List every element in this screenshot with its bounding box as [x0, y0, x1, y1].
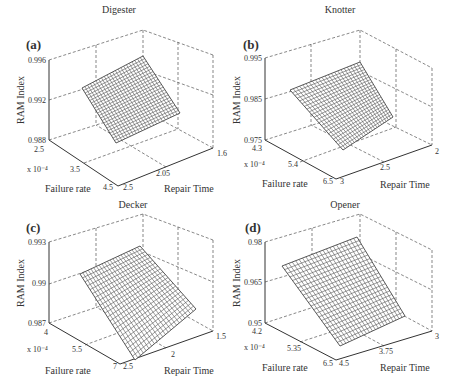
svg-text:0.988: 0.988: [28, 136, 46, 145]
svg-text:3.75: 3.75: [379, 347, 393, 356]
svg-text:0.995: 0.995: [244, 54, 262, 63]
svg-text:5.5: 5.5: [72, 345, 82, 354]
svg-text:7: 7: [113, 362, 117, 371]
svg-text:Knotter: Knotter: [325, 4, 356, 15]
svg-text:0.965: 0.965: [244, 278, 262, 287]
svg-text:0.99: 0.99: [32, 279, 46, 288]
svg-text:(c): (c): [26, 220, 40, 235]
svg-text:RAM Index: RAM Index: [231, 259, 242, 307]
panel-title: Digester: [102, 4, 137, 15]
svg-text:6.5: 6.5: [323, 359, 333, 368]
svg-text:x 10⁻⁴: x 10⁻⁴: [27, 345, 48, 354]
svg-text:RAM Index: RAM Index: [15, 259, 26, 307]
panel-label: (a): [26, 37, 41, 52]
svg-text:2.5: 2.5: [380, 163, 390, 172]
svg-text:2.5: 2.5: [123, 183, 133, 192]
svg-text:Failure rate: Failure rate: [262, 362, 308, 373]
svg-text:0.996: 0.996: [28, 56, 46, 65]
svg-text:Opener: Opener: [330, 199, 360, 210]
figure-canvas: Digester (a) 0.996 0.992 0.988 2.5 3.5 4…: [0, 0, 455, 392]
svg-text:0.985: 0.985: [244, 95, 262, 104]
svg-text:2.5: 2.5: [34, 145, 44, 154]
svg-text:2: 2: [435, 147, 439, 156]
svg-text:0.987: 0.987: [28, 319, 46, 328]
failure-rate-axis: [49, 140, 118, 186]
svg-text:Failure rate: Failure rate: [45, 365, 91, 376]
svg-text:4.5: 4.5: [103, 183, 113, 192]
svg-text:Repair Time: Repair Time: [380, 179, 430, 190]
svg-text:RAM Index: RAM Index: [231, 76, 242, 124]
svg-text:0.992: 0.992: [28, 96, 46, 105]
svg-text:6.5: 6.5: [323, 177, 333, 186]
svg-text:(b): (b): [243, 37, 259, 52]
svg-text:0.993: 0.993: [28, 238, 46, 247]
z-axis-label: RAM Index: [15, 76, 26, 124]
svg-text:4.5: 4.5: [339, 359, 349, 368]
panel-c: Decker (c) 0.993 0.99 0.987 4 5.5 7 2.5 …: [15, 199, 226, 376]
svg-text:Failure rate: Failure rate: [262, 178, 308, 189]
svg-text:x 10⁻⁴: x 10⁻⁴: [27, 165, 48, 174]
svg-text:4.2: 4.2: [252, 327, 262, 336]
svg-text:5.4: 5.4: [288, 160, 298, 169]
svg-text:3.5: 3.5: [70, 165, 80, 174]
svg-text:Decker: Decker: [119, 199, 149, 210]
svg-text:4.3: 4.3: [252, 144, 262, 153]
svg-text:3: 3: [435, 332, 439, 341]
panel-a: Digester (a) 0.996 0.992 0.988 2.5 3.5 4…: [15, 4, 227, 194]
svg-text:2.05: 2.05: [156, 169, 170, 178]
svg-text:2.5: 2.5: [123, 362, 133, 371]
failure-rate-label: Failure rate: [45, 183, 91, 194]
svg-text:Repair Time: Repair Time: [164, 365, 214, 376]
svg-text:4: 4: [44, 328, 48, 337]
panel-d: Opener (d) 0.98 0.965 0.95 4.2 5.35 6.5 …: [231, 199, 439, 373]
svg-text:1.6: 1.6: [217, 149, 227, 158]
svg-text:(d): (d): [245, 220, 261, 235]
svg-text:1.5: 1.5: [216, 332, 226, 341]
svg-text:x 10⁻⁴: x 10⁻⁴: [244, 343, 265, 352]
repair-time-label: Repair Time: [164, 183, 214, 194]
panel-b: Knotter (b) 0.995 0.985 0.975 4.3 5.4 6.…: [231, 4, 439, 190]
svg-text:0.98: 0.98: [248, 238, 262, 247]
repair-time-axis: [118, 148, 213, 186]
svg-text:Repair Time: Repair Time: [380, 362, 430, 373]
svg-text:x 10⁻⁴: x 10⁻⁴: [244, 160, 265, 169]
svg-text:2: 2: [171, 350, 175, 359]
svg-text:5.35: 5.35: [287, 344, 301, 353]
svg-text:3: 3: [340, 177, 344, 186]
